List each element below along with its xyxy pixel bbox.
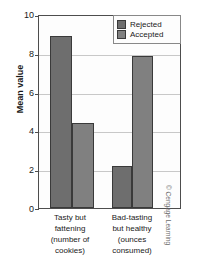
legend: Rejected Accepted <box>113 15 181 44</box>
y-tick-mark <box>35 94 39 95</box>
x-category-line: consumed) <box>92 245 172 256</box>
x-category-line: but healthy <box>92 223 172 234</box>
x-category-label-2: Bad-tasting but healthy (ounces consumed… <box>92 212 172 256</box>
y-tick-mark <box>35 171 39 172</box>
x-category-line: Bad-tasting <box>92 212 172 223</box>
y-tick-label: 10 <box>12 11 34 20</box>
y-tick-mark <box>35 209 39 210</box>
copyright-credit: © Cengage Learning <box>165 185 172 265</box>
legend-label: Accepted <box>130 31 163 39</box>
y-tick-label: 6 <box>12 88 34 97</box>
x-axis-category-labels: Tasty but fattening (number of cookies) … <box>38 212 181 270</box>
legend-swatch-icon <box>117 20 126 29</box>
bar-rejected-bad-tasting-but-healthy <box>112 166 132 208</box>
legend-item-accepted: Accepted <box>117 30 177 39</box>
bar-rejected-tasty-but-fattening <box>50 36 72 208</box>
bar-chart-figure: Mean value 10 8 6 4 2 0 Rejected <box>0 0 210 273</box>
bar-accepted-bad-tasting-but-healthy <box>132 56 153 208</box>
y-tick-mark <box>35 132 39 133</box>
y-tick-mark <box>35 55 39 56</box>
legend-swatch-icon <box>117 30 126 39</box>
legend-item-rejected: Rejected <box>117 20 177 29</box>
legend-label: Rejected <box>130 21 162 29</box>
plot-area <box>38 15 181 209</box>
x-category-line: (ounces <box>92 234 172 245</box>
y-tick-label: 4 <box>12 127 34 136</box>
y-tick-mark <box>35 16 39 17</box>
bar-accepted-tasty-but-fattening <box>72 123 94 208</box>
y-tick-label: 2 <box>12 166 34 175</box>
y-tick-label: 8 <box>12 49 34 58</box>
